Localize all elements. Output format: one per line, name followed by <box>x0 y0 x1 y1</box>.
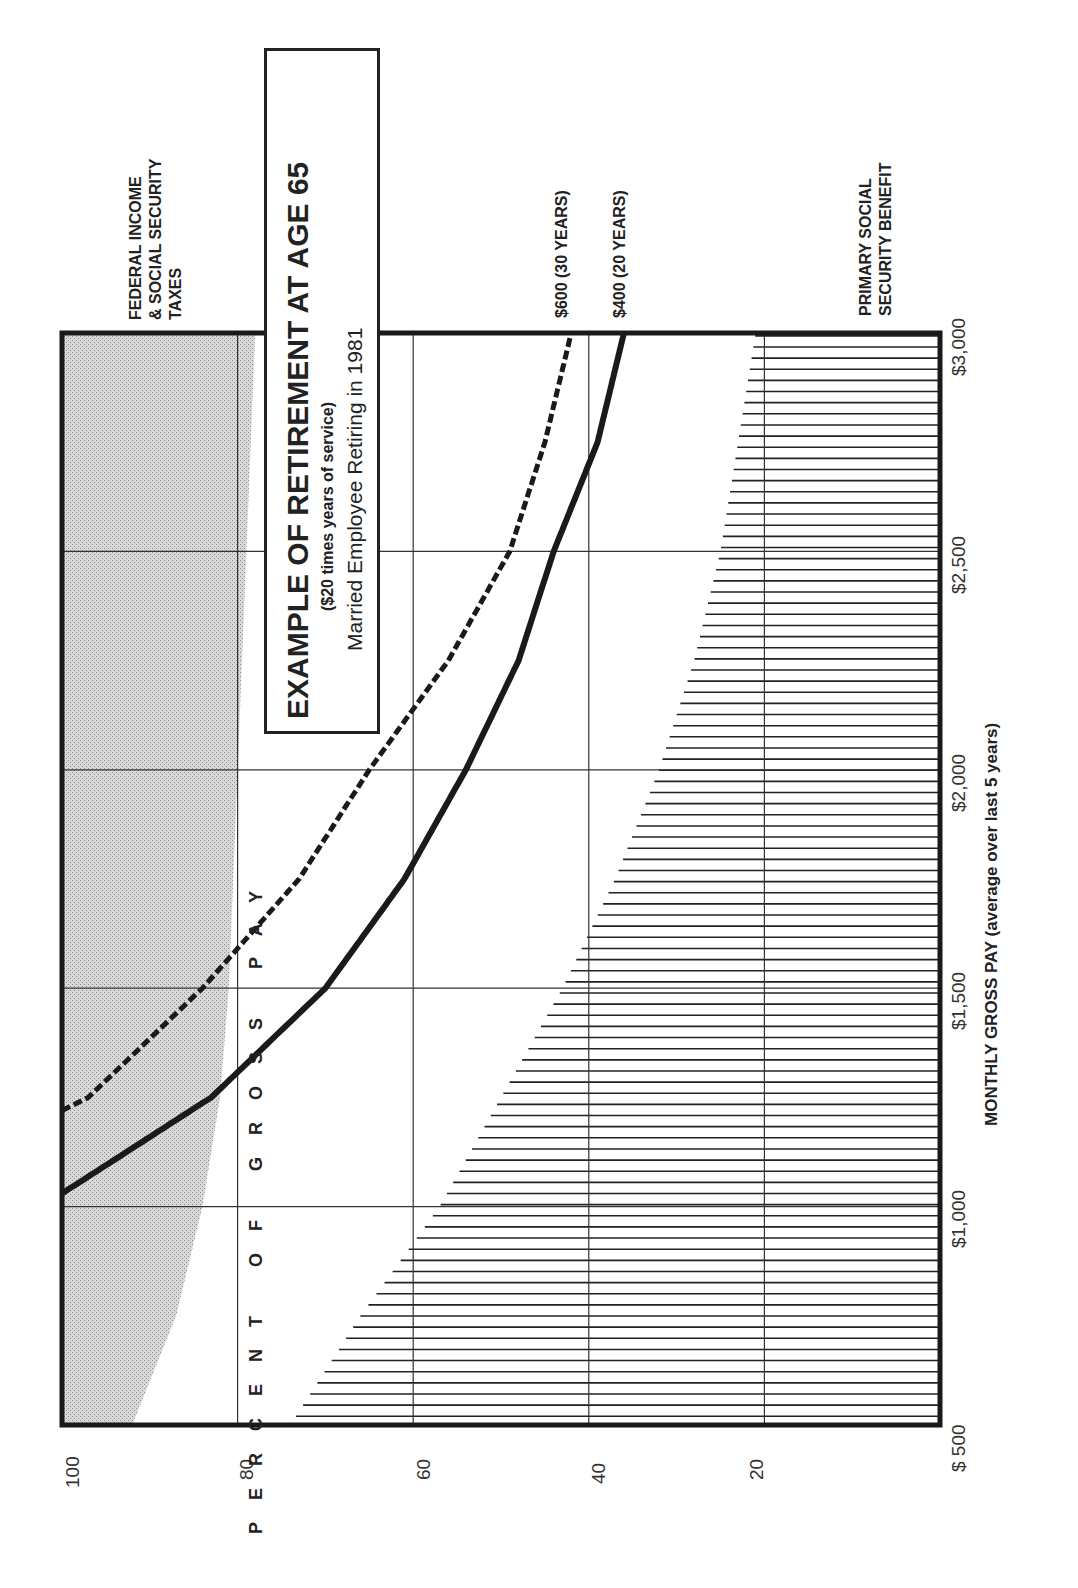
chart-title: EXAMPLE OF RETIREMENT AT AGE 65 <box>281 162 315 719</box>
chart-subtitle: ($20 times years of service) <box>319 402 337 611</box>
taxes-label-line3: TAXES <box>166 268 186 320</box>
y-tick-20: 20 <box>746 1459 768 1480</box>
x-tick-2500: $2,500 <box>948 536 970 594</box>
x-tick-1000: $1,000 <box>948 1190 970 1248</box>
taxes-label-line2: & SOCIAL SECURITY <box>146 159 166 321</box>
curve400-label: $400 (20 YEARS) <box>610 190 630 318</box>
y-tick-60: 60 <box>413 1459 435 1480</box>
taxes-shaded-area <box>62 333 255 1425</box>
x-axis-label: MONTHLY GROSS PAY (average over last 5 y… <box>982 723 1002 1126</box>
curve600-label: $600 (30 YEARS) <box>552 190 572 318</box>
y-axis-label: PERCENT OF GROSS PAY <box>246 869 267 1534</box>
social-security-hatch <box>296 336 940 1416</box>
y-tick-100: 100 <box>62 1456 84 1488</box>
x-tick-1500: $1,500 <box>948 972 970 1030</box>
x-tick-500: $ 500 <box>948 1424 970 1472</box>
title-box: EXAMPLE OF RETIREMENT AT AGE 65 ($20 tim… <box>264 48 380 734</box>
y-tick-40: 40 <box>588 1463 610 1484</box>
x-tick-3000: $3,000 <box>948 318 970 376</box>
chart-subtitle-2: Married Employee Retiring in 1981 <box>343 328 367 651</box>
ss-label-line2: SECURITY BENEFIT <box>876 163 896 317</box>
x-tick-2000: $2,000 <box>948 754 970 812</box>
taxes-label-line1: FEDERAL INCOME <box>126 176 146 320</box>
ss-label-line1: PRIMARY SOCIAL <box>856 178 876 316</box>
